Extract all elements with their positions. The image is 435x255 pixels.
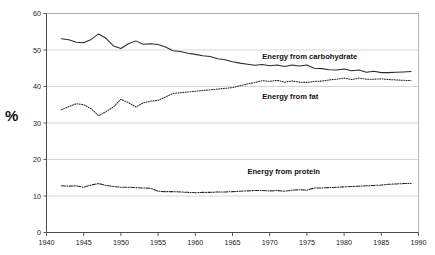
x-tick-label-1940: 1940 (39, 238, 55, 247)
y-tick-label-40: 40 (33, 82, 41, 91)
x-tick-label-1985: 1985 (373, 238, 389, 247)
x-axis: 1940194519501955196019651970197519801985… (39, 233, 427, 248)
x-tick-label-1960: 1960 (187, 238, 203, 247)
gridlines (47, 14, 419, 197)
y-tick-label-0: 0 (37, 228, 41, 237)
series-annotations: Energy from carbohydrateEnergy from fatE… (247, 52, 357, 176)
series-lines (61, 34, 411, 193)
x-tick-label-1945: 1945 (76, 238, 92, 247)
x-tick-label-1955: 1955 (150, 238, 166, 247)
y-tick-label-30: 30 (33, 119, 41, 128)
y-tick-label-60: 60 (33, 9, 41, 18)
x-tick-label-1950: 1950 (113, 238, 129, 247)
x-tick-label-1975: 1975 (299, 238, 315, 247)
series-line-2 (61, 184, 411, 193)
chart-container: % 0102030405060 194019451950195519601965… (0, 0, 435, 255)
series-label-2: Energy from protein (247, 167, 320, 176)
x-tick-label-1970: 1970 (262, 238, 278, 247)
y-tick-label-50: 50 (33, 46, 41, 55)
x-tick-label-1990: 1990 (411, 238, 427, 247)
series-label-0: Energy from carbohydrate (262, 52, 357, 61)
series-label-1: Energy from fat (262, 92, 319, 101)
y-tick-label-20: 20 (33, 155, 41, 164)
line-chart: 0102030405060 19401945195019551960196519… (0, 0, 435, 255)
x-tick-label-1980: 1980 (336, 238, 352, 247)
y-axis: 0102030405060 (33, 9, 47, 237)
x-tick-label-1965: 1965 (225, 238, 241, 247)
series-line-1 (61, 78, 411, 116)
y-tick-label-10: 10 (33, 192, 41, 201)
series-line-0 (61, 34, 411, 73)
